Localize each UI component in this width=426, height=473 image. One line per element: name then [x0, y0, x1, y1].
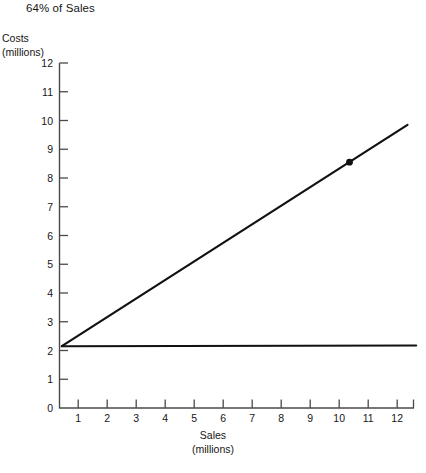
x-tick-label: 3 — [133, 412, 139, 424]
y-tick-label: 1 — [47, 373, 53, 385]
series-line-total-cost — [62, 125, 408, 346]
x-tick-label: 6 — [220, 412, 226, 424]
x-tick-label: 11 — [363, 412, 374, 424]
plot-area: 12 11 10 9 8 7 6 5 4 3 2 1 0 — [0, 0, 426, 473]
x-tick-label: 12 — [391, 412, 403, 424]
y-tick-label: 6 — [47, 230, 53, 242]
y-axis-tick-labels: 12 11 10 9 8 7 6 5 4 3 2 1 0 — [41, 57, 53, 414]
y-tick-label: 0 — [47, 402, 53, 414]
x-axis-label-text: Sales — [200, 429, 226, 441]
breakeven-point-marker — [346, 159, 353, 166]
y-tick-label: 12 — [41, 57, 53, 69]
x-tick-label: 8 — [278, 412, 284, 424]
y-tick-label: 11 — [42, 86, 53, 98]
y-tick-label: 8 — [47, 172, 53, 184]
x-tick-label: 1 — [75, 412, 81, 424]
x-tick-label: 4 — [162, 412, 168, 424]
x-axis-label: Sales (millions) — [0, 428, 426, 456]
y-tick-label: 5 — [47, 258, 53, 270]
y-tick-label: 3 — [47, 316, 53, 328]
x-axis-label-unit: (millions) — [0, 442, 426, 456]
chart-container: 64% of Sales Costs (millions) 12 11 — [0, 0, 426, 473]
x-axis-ticks — [78, 400, 413, 409]
x-axis-tick-labels: 1 2 3 4 5 6 7 8 9 10 11 12 — [75, 412, 403, 424]
y-axis-ticks — [60, 63, 69, 379]
series-line-fixed-cost — [62, 346, 416, 347]
y-tick-label: 4 — [47, 287, 53, 299]
y-tick-label: 2 — [47, 345, 53, 357]
x-tick-label: 9 — [307, 412, 313, 424]
x-tick-label: 7 — [249, 412, 255, 424]
x-tick-label: 2 — [104, 412, 110, 424]
y-tick-label: 10 — [41, 115, 53, 127]
x-tick-label: 10 — [333, 412, 345, 424]
y-tick-label: 9 — [47, 143, 53, 155]
y-tick-label: 7 — [47, 201, 53, 213]
x-tick-label: 5 — [191, 412, 197, 424]
